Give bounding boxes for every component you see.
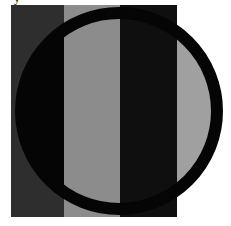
figure-canvas: y: [0, 0, 231, 226]
abstract-figure: [0, 0, 231, 226]
